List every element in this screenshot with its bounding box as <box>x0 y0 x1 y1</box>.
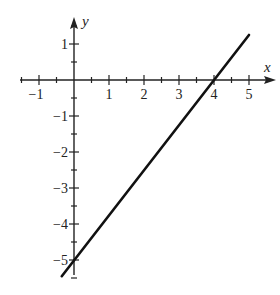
x-tick-label: −1 <box>29 87 44 102</box>
line-graph: −1123451−1−2−3−4−5 x y <box>0 0 280 295</box>
series-line <box>62 35 249 276</box>
y-tick-label: −4 <box>53 217 68 232</box>
x-tick-label: 1 <box>106 87 113 102</box>
y-tick-label: 1 <box>61 37 68 52</box>
x-axis-label: x <box>263 59 271 75</box>
y-tick-label: −1 <box>53 109 68 124</box>
y-axis-label: y <box>80 13 89 29</box>
data-series <box>62 35 249 276</box>
x-tick-label: 3 <box>176 87 183 102</box>
x-tick-label: 5 <box>246 87 253 102</box>
y-tick-label: −3 <box>53 181 68 196</box>
y-tick-label: −5 <box>53 253 68 268</box>
x-tick-label: 4 <box>211 87 218 102</box>
y-tick-label: −2 <box>53 145 68 160</box>
x-tick-label: 2 <box>141 87 148 102</box>
